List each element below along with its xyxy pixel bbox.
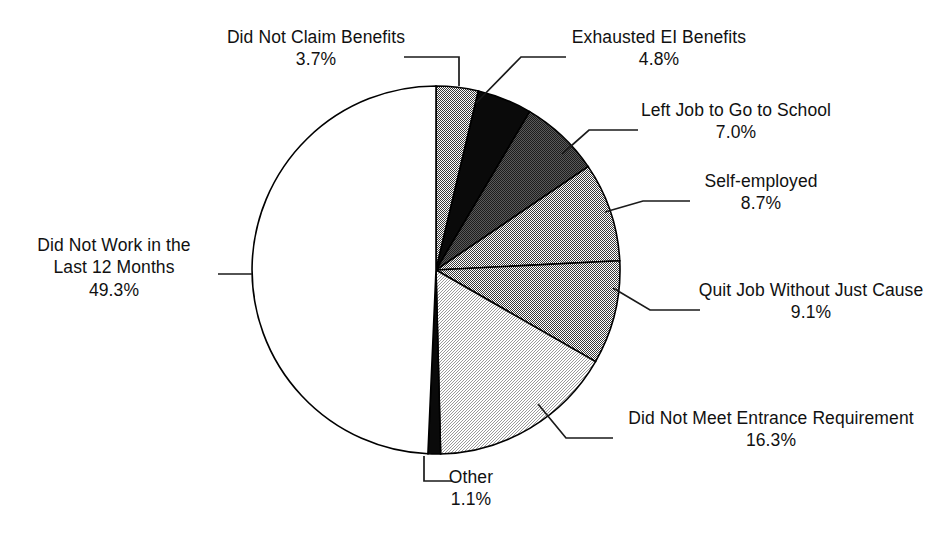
pie-slice-did-not-work-in-the-last-12-months[interactable]: Did Not Work in the Last 12 Months 49.3% bbox=[252, 86, 436, 454]
callout-did-not-work-last-12-months: Did Not Work in the Last 12 Months 49.3% bbox=[14, 234, 214, 301]
callout-label-line2: Last 12 Months bbox=[14, 256, 214, 278]
callout-value: 3.7% bbox=[186, 48, 446, 70]
callout-value: 1.1% bbox=[406, 488, 536, 510]
callout-value: 49.3% bbox=[14, 279, 214, 301]
pie-chart-figure: Did Not Claim Benefits 3.7%Exhausted EI … bbox=[0, 0, 949, 533]
callout-value: 16.3% bbox=[596, 429, 946, 451]
callout-did-not-claim-benefits: Did Not Claim Benefits 3.7% bbox=[186, 26, 446, 71]
callout-label: Quit Job Without Just Cause bbox=[682, 279, 940, 301]
callout-left-job-to-go-to-school: Left Job to Go to School 7.0% bbox=[620, 99, 852, 144]
callout-label: Did Not Claim Benefits bbox=[186, 26, 446, 48]
callout-label: Left Job to Go to School bbox=[620, 99, 852, 121]
callout-label-line1: Did Not Work in the bbox=[14, 234, 214, 256]
callout-value: 7.0% bbox=[620, 121, 852, 143]
callout-quit-job-without-just-cause: Quit Job Without Just Cause 9.1% bbox=[682, 279, 940, 324]
callout-value: 9.1% bbox=[682, 301, 940, 323]
callout-label: Did Not Meet Entrance Requirement bbox=[596, 407, 946, 429]
callout-did-not-meet-entrance-requirement: Did Not Meet Entrance Requirement 16.3% bbox=[596, 407, 946, 452]
callout-value: 8.7% bbox=[672, 192, 850, 214]
callout-label: Exhausted EI Benefits bbox=[548, 26, 770, 48]
callout-label: Other bbox=[406, 466, 536, 488]
callout-label: Self-employed bbox=[672, 170, 850, 192]
callout-other: Other 1.1% bbox=[406, 466, 536, 511]
callout-value: 4.8% bbox=[548, 48, 770, 70]
callout-exhausted-ei-benefits: Exhausted EI Benefits 4.8% bbox=[548, 26, 770, 71]
pie-slice-layer: Did Not Claim Benefits 3.7%Exhausted EI … bbox=[252, 86, 620, 454]
callout-self-employed: Self-employed 8.7% bbox=[672, 170, 850, 215]
